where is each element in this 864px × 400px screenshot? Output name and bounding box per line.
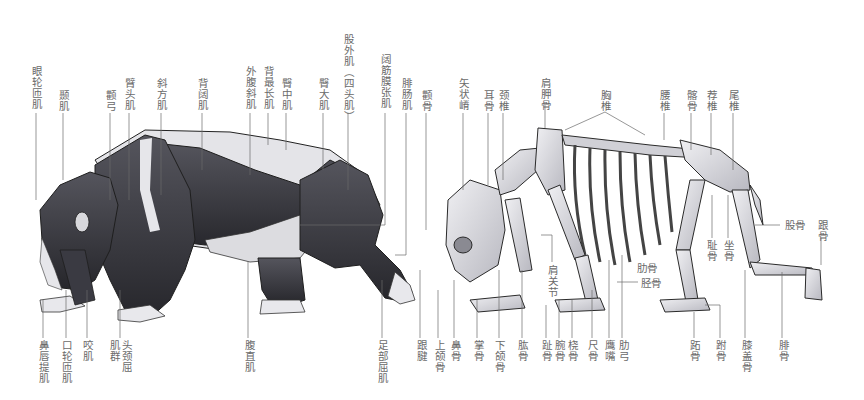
label-zygomatic-bone: 颧骨 — [420, 90, 432, 112]
label-costal-arch: 肋弓 — [617, 340, 629, 362]
label-achilles-tendon: 跟腱 — [415, 340, 427, 362]
label-thoracic-vertebrae: 胸椎 — [599, 90, 611, 112]
label-external-oblique: 外腹斜肌 — [244, 66, 256, 110]
label-humerus: 肱骨 — [516, 340, 528, 362]
label-gluteus-medius: 臀中肌 — [280, 78, 292, 111]
label-nasal-bone: 鼻骨 — [449, 340, 461, 362]
label-scapula: 肩胛骨 — [539, 78, 551, 111]
label-radius: 桡骨 — [566, 340, 578, 362]
label-phalanges: 趾骨 — [540, 340, 552, 362]
label-ribs: 肋骨 — [637, 262, 657, 274]
label-vastus-lateralis: 股外肌（四头肌） — [342, 34, 354, 122]
label-foot-flexors: 足部屈肌 — [376, 340, 388, 384]
skeleton-figure — [446, 128, 822, 312]
label-ulna: 尺骨 — [586, 340, 598, 362]
label-pubis: 耻骨 — [705, 240, 717, 262]
label-temporalis: 颞肌 — [57, 90, 69, 112]
label-head-neck-flexor: 头颈屈 — [120, 340, 132, 373]
label-calcaneus: 跟骨 — [816, 220, 828, 242]
label-mandible: 下颌骨 — [493, 340, 505, 373]
label-olecranon: 鹰嘴 — [603, 340, 615, 362]
label-gluteus-maximus: 臀大肌 — [317, 78, 329, 111]
label-orbicularis-oculi: 眼轮匝肌 — [30, 66, 42, 110]
label-metacarpals: 掌骨 — [472, 340, 484, 362]
label-ear-bone: 耳骨 — [482, 90, 494, 112]
label-ischium: 坐骨 — [722, 240, 734, 262]
label-fibula: 腓骨 — [777, 340, 789, 362]
label-patella: 膝盖骨 — [740, 340, 752, 373]
label-longissimus-dorsi: 背最长肌 — [262, 66, 274, 110]
label-orbicularis-oris: 口轮匝肌 — [60, 340, 72, 384]
label-rectus-abdominis: 腹直肌 — [243, 340, 255, 373]
label-caudal-vertebrae: 尾椎 — [727, 90, 739, 112]
label-carpals: 腕骨 — [553, 340, 565, 362]
label-zygomatic-arch: 颧弓 — [104, 90, 116, 112]
label-levator-nasolabialis: 鼻唇提肌 — [37, 340, 49, 384]
label-cervical-vertebrae: 颈椎 — [497, 90, 509, 112]
label-metatarsals: 跖骨 — [688, 340, 700, 362]
label-trapezius: 斜方肌 — [155, 78, 167, 111]
label-maxilla: 上颌骨 — [433, 340, 445, 373]
label-lumbar-vertebrae: 腰椎 — [658, 90, 670, 112]
label-brachiocephalicus: 臂头肌 — [123, 78, 135, 111]
label-ilium: 髂骨 — [685, 90, 697, 112]
musculature-figure — [40, 130, 415, 322]
label-sagittal-crest: 矢状嵴 — [457, 78, 469, 111]
label-gastrocnemius: 腓肠肌 — [400, 78, 412, 111]
bear-anatomy-diagram: 眼轮匝肌 颞肌 颧弓 臂头肌 斜方肌 背阔肌 外腹斜肌 背最长肌 臀中肌 臀大肌… — [0, 0, 864, 400]
label-tensor-fasciae-latae: 阔筋膜张肌 — [379, 54, 391, 109]
label-tarsals: 跗骨 — [714, 340, 726, 362]
label-femur: 股骨 — [785, 219, 805, 231]
label-latissimus-dorsi: 背阔肌 — [196, 78, 208, 111]
label-shoulder-joint: 肩关节 — [546, 265, 558, 298]
label-sacrum: 荐椎 — [705, 90, 717, 112]
label-masseter: 咬肌 — [81, 340, 93, 362]
label-tibia: 胫骨 — [641, 277, 661, 289]
label-muscle-group: 肌群 — [108, 340, 120, 362]
